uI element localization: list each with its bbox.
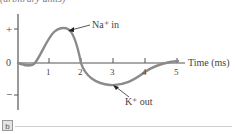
x-tick-label-2: 2 <box>78 67 83 77</box>
k-out-label: K⁺ out <box>125 96 153 107</box>
current-chart: Na⁺ in K⁺ out Time (ms) + 0 − 1 2 3 4 5 <box>0 0 236 134</box>
y-tick-label-plus: + <box>6 23 12 35</box>
na-in-label: Na⁺ in <box>92 19 119 30</box>
x-tick-label-1: 1 <box>46 67 51 77</box>
panel-divider <box>15 126 232 127</box>
current-curve <box>18 28 178 85</box>
panel-label-badge: b <box>2 120 13 131</box>
y-tick-label-zero: 0 <box>6 57 11 68</box>
y-tick-label-minus: − <box>6 88 12 100</box>
x-axis-title: Time (ms) <box>188 57 230 69</box>
x-tick-label-5: 5 <box>174 67 179 77</box>
x-tick-label-3: 3 <box>110 67 115 77</box>
x-ticks <box>49 58 177 63</box>
x-tick-label-4: 4 <box>142 67 147 77</box>
